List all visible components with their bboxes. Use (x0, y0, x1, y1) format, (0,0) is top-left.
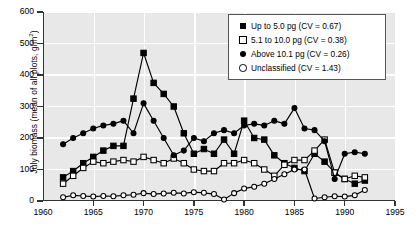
series-marker-open-square (101, 161, 106, 166)
series-marker-filled-circle (262, 123, 267, 128)
series-marker-filled-square (252, 135, 257, 140)
series-marker-filled-circle (282, 121, 287, 126)
legend-marker-filled-square-icon (235, 23, 251, 29)
series-marker-filled-circle (71, 136, 76, 141)
legend-marker-open-square-icon (235, 36, 251, 43)
legend-marker-shape (239, 36, 246, 43)
series-marker-open-circle (272, 176, 277, 181)
series-marker-filled-circle (322, 139, 327, 144)
series-marker-filled-circle (222, 128, 227, 133)
series-marker-open-circle (211, 192, 216, 197)
series-marker-open-square (252, 161, 257, 166)
series-marker-filled-square (111, 143, 116, 148)
series-marker-filled-circle (302, 126, 307, 131)
series-marker-filled-square (151, 80, 156, 85)
series-marker-open-square (151, 157, 156, 162)
series-marker-filled-circle (362, 151, 367, 156)
series-marker-filled-square (201, 146, 206, 151)
series-marker-open-square (81, 165, 86, 170)
legend-item: 5.1 to 10.0 pg (CV = 0.38) (235, 33, 380, 47)
series-marker-open-circle (111, 194, 116, 199)
series-marker-open-circle (252, 184, 257, 189)
series-marker-filled-circle (171, 153, 176, 158)
series-marker-open-circle (332, 194, 337, 199)
series-marker-open-circle (201, 190, 206, 195)
series-marker-open-circle (61, 195, 66, 200)
series-marker-open-circle (322, 195, 327, 200)
series-marker-open-square (70, 173, 75, 178)
series-marker-open-square (211, 168, 216, 173)
series-marker-open-circle (91, 194, 96, 199)
series-marker-open-circle (151, 192, 156, 197)
series-marker-open-square (111, 159, 116, 164)
series-marker-filled-circle (81, 131, 86, 136)
series-marker-filled-square (191, 151, 196, 156)
series-marker-open-circle (342, 194, 347, 199)
series-marker-filled-square (141, 50, 146, 55)
series-marker-open-circle (71, 193, 76, 198)
series-marker-open-square (312, 148, 317, 153)
legend-item: Above 10.1 pg (CV = 0.26) (235, 47, 380, 61)
series-marker-filled-circle (252, 121, 257, 126)
series-marker-open-circle (302, 167, 307, 172)
series-marker-open-square (302, 157, 307, 162)
series-marker-open-circle (191, 190, 196, 195)
series-marker-filled-circle (211, 131, 216, 136)
legend-item: Up to 5.0 pg (CV = 0.67) (235, 19, 380, 33)
series-marker-filled-circle (101, 123, 106, 128)
series-marker-filled-circle (292, 106, 297, 111)
series-marker-open-square (282, 162, 287, 167)
series-marker-open-circle (312, 196, 317, 201)
series-marker-open-square (191, 167, 196, 172)
series-marker-open-square (181, 161, 186, 166)
series-marker-filled-circle (232, 131, 237, 136)
series-marker-filled-circle (332, 176, 337, 181)
series-marker-open-square (342, 176, 347, 181)
series-marker-open-circle (121, 193, 126, 198)
chart-figure: July biomass (mean of all plots, g/m2) 0… (0, 0, 419, 234)
series-marker-filled-square (161, 91, 166, 96)
series-marker-open-square (352, 173, 357, 178)
series-marker-open-circle (362, 187, 367, 192)
series-marker-filled-square (211, 151, 216, 156)
series-marker-open-circle (352, 193, 357, 198)
series-marker-filled-circle (131, 131, 136, 136)
series-line (63, 103, 365, 179)
series-marker-open-square (221, 161, 226, 166)
series-marker-filled-circle (342, 151, 347, 156)
series-marker-filled-circle (312, 128, 317, 133)
series-marker-open-square (60, 181, 65, 186)
series-marker-filled-square (171, 104, 176, 109)
series-marker-open-square (121, 157, 126, 162)
series-marker-filled-circle (141, 101, 146, 106)
series-marker-open-square (91, 159, 96, 164)
series-marker-open-circle (141, 191, 146, 196)
series-marker-open-square (241, 157, 246, 162)
series-line (63, 140, 365, 184)
series-marker-open-circle (232, 191, 237, 196)
series-marker-filled-circle (91, 126, 96, 131)
series-marker-filled-circle (181, 148, 186, 153)
legend-item-label: Unclassified (CV = 1.43) (251, 63, 341, 73)
series-marker-filled-circle (201, 139, 206, 144)
series-marker-open-square (262, 167, 267, 172)
series-marker-open-circle (161, 191, 166, 196)
legend-marker-open-circle-icon (235, 64, 251, 71)
series-marker-open-circle (81, 193, 86, 198)
series-marker-open-circle (181, 191, 186, 196)
series-marker-filled-square (272, 153, 277, 158)
series-marker-filled-square (262, 137, 267, 142)
legend-marker-filled-circle-icon (235, 51, 251, 57)
series-marker-filled-circle (242, 123, 247, 128)
legend-item: Unclassified (CV = 1.43) (235, 61, 380, 75)
series-marker-filled-circle (191, 136, 196, 141)
series-marker-filled-circle (121, 118, 126, 123)
series-marker-open-circle (242, 186, 247, 191)
series-marker-open-square (231, 161, 236, 166)
series-marker-open-square (161, 161, 166, 166)
legend-item-label: Up to 5.0 pg (CV = 0.67) (251, 21, 341, 31)
series-marker-filled-circle (111, 121, 116, 126)
series-marker-filled-square (352, 181, 357, 186)
series-marker-filled-circle (352, 150, 357, 155)
series-marker-filled-square (181, 131, 186, 136)
